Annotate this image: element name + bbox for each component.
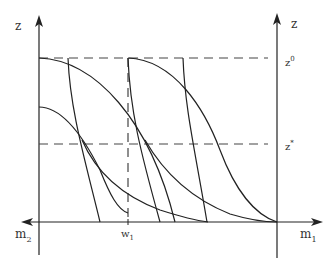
w1-label-sub: 1 (130, 234, 134, 242)
curve-steep-3 (183, 58, 207, 222)
z0-label-sup: 0 (290, 55, 294, 63)
w1-label: w1 (121, 228, 134, 242)
z0-label: z0 (285, 55, 295, 68)
curve-outer-left (39, 58, 175, 222)
curve-decay-1 (82, 140, 208, 222)
m1-label-sub: 1 (311, 235, 316, 244)
zstar-label: z* (285, 139, 294, 152)
m2-label-sub: 2 (26, 235, 31, 244)
left-z-axis-label: z (15, 19, 21, 33)
m2-label-base: m (15, 227, 27, 241)
m2-label: m2 (15, 227, 31, 244)
m1-label: m1 (300, 227, 316, 244)
curve-inner-left (39, 107, 100, 170)
right-z-axis-label: z (291, 17, 297, 31)
curves (39, 58, 277, 222)
m1-label-base: m (300, 227, 312, 241)
labels: z z z0 z* m2 m1 w1 (15, 17, 316, 244)
zstar-label-sup: * (290, 139, 294, 147)
diagram-canvas: z z z0 z* m2 m1 w1 (0, 0, 333, 262)
curve-steep-1 (68, 58, 100, 222)
